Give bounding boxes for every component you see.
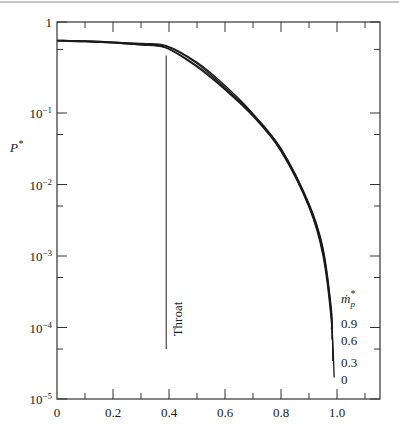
tick-labels: 00.20.40.60.81.0110−110−210−310−410−5 bbox=[29, 15, 345, 420]
x-tick-label: 0.8 bbox=[273, 405, 289, 420]
curve-mp-0 bbox=[57, 41, 334, 378]
legend-entry: 0.3 bbox=[341, 355, 357, 370]
legend-entry: 0.9 bbox=[341, 316, 357, 331]
y-axis-label: P* bbox=[9, 138, 23, 155]
curves bbox=[57, 40, 334, 377]
curve-mp-0_9 bbox=[57, 40, 332, 329]
y-tick-label: 10−5 bbox=[29, 391, 52, 407]
legend-entry: 0.6 bbox=[341, 333, 358, 348]
x-tick-label: 0 bbox=[54, 405, 61, 420]
y-tick-label: 10−4 bbox=[29, 320, 52, 336]
plot-frame bbox=[57, 22, 380, 399]
legend-entry: 0 bbox=[341, 372, 348, 387]
ticks bbox=[57, 22, 380, 399]
y-tick-label: 10−1 bbox=[29, 105, 52, 121]
throat-label: Throat bbox=[170, 301, 185, 336]
y-tick-label: 1 bbox=[46, 15, 53, 30]
x-tick-label: 1.0 bbox=[329, 405, 345, 420]
x-tick-label: 0.6 bbox=[217, 405, 234, 420]
curve-mp-0_6 bbox=[57, 40, 332, 339]
y-tick-label: 10−3 bbox=[29, 248, 52, 264]
x-tick-label: 0.2 bbox=[105, 405, 121, 420]
x-tick-label: 0.4 bbox=[161, 405, 178, 420]
curve-mp-0_3 bbox=[57, 41, 333, 361]
legend: ṁp*0.90.60.30 bbox=[341, 288, 358, 387]
chart: 00.20.40.60.81.0110−110−210−310−410−5 Th… bbox=[0, 0, 399, 432]
legend-title: ṁp* bbox=[341, 288, 355, 309]
plot-border bbox=[57, 22, 380, 399]
y-tick-label: 10−2 bbox=[29, 177, 52, 193]
